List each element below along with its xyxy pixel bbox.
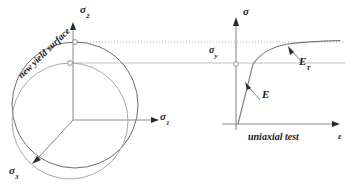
inner-surface-apex-marker bbox=[68, 61, 73, 66]
yield-stress-label: σy bbox=[209, 44, 218, 58]
sigma3-axis bbox=[38, 120, 73, 158]
sigma2-axis-label: σ2 bbox=[80, 3, 89, 18]
strain-arrowhead bbox=[332, 121, 340, 127]
modulus-leaders bbox=[245, 46, 302, 100]
new-yield-surface bbox=[12, 63, 128, 179]
sigma3-axis-label: σ3 bbox=[9, 164, 18, 179]
outer-surface-apex-marker bbox=[73, 40, 78, 45]
stress-arrowhead bbox=[233, 17, 239, 26]
yield-point-marker bbox=[234, 62, 239, 67]
elastic-modulus-label: E bbox=[262, 88, 269, 100]
stress-axis-label: σ bbox=[243, 5, 249, 17]
uniaxial-test-caption: uniaxial test bbox=[248, 131, 299, 142]
right-panel-axes bbox=[222, 17, 340, 130]
stress-strain-curve bbox=[238, 41, 340, 124]
ET-leader-arrowhead bbox=[288, 46, 294, 55]
tangent-modulus-label: ET bbox=[299, 55, 311, 70]
strain-axis-label: ε bbox=[338, 131, 342, 141]
sigma1-axis-label: σ1 bbox=[160, 110, 169, 125]
isotropic-hardening-figure bbox=[0, 0, 353, 188]
sigma1-arrowhead bbox=[151, 117, 159, 123]
